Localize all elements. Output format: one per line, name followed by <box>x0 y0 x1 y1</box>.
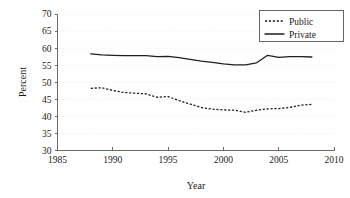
x-tick-marks <box>58 147 335 151</box>
legend-label-private: Private <box>289 30 316 40</box>
x-tick-labels: 198519901995200020052010 <box>48 155 344 165</box>
x-tick-label-1985: 1985 <box>48 155 67 165</box>
y-tick-label-40: 40 <box>42 112 52 122</box>
data-series <box>91 54 312 112</box>
x-axis-title: Year <box>187 180 206 191</box>
y-tick-label-60: 60 <box>42 44 52 54</box>
y-tick-label-65: 65 <box>42 26 52 36</box>
series-line-private <box>91 54 312 65</box>
x-tick-label-1995: 1995 <box>159 155 178 165</box>
legend-label-public: Public <box>289 17 313 27</box>
y-tick-label-70: 70 <box>42 9 52 19</box>
series-line-public <box>91 88 312 113</box>
x-tick-label-2010: 2010 <box>325 155 344 165</box>
x-tick-label-1990: 1990 <box>103 155 122 165</box>
y-tick-labels: 303540455055606570 <box>42 9 52 156</box>
x-tick-label-2000: 2000 <box>214 155 233 165</box>
y-tick-label-35: 35 <box>42 129 52 139</box>
y-axis-title: Percent <box>17 67 28 97</box>
y-tick-label-50: 50 <box>42 78 52 88</box>
y-tick-label-45: 45 <box>42 95 52 105</box>
y-tick-label-55: 55 <box>42 61 52 71</box>
legend: Public Private <box>260 11 344 42</box>
chart-canvas: 303540455055606570 198519901995200020052… <box>0 0 350 198</box>
line-chart: 303540455055606570 198519901995200020052… <box>0 0 350 198</box>
x-tick-label-2005: 2005 <box>269 155 288 165</box>
